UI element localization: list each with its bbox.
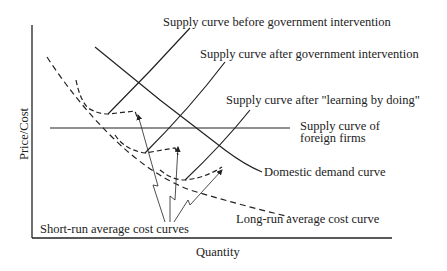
chart-canvas: Supply curve before government intervent… [0, 0, 447, 271]
supply-after-learning-curve [185, 110, 250, 180]
y-axis-label: Price/Cost [17, 107, 31, 160]
label-demand: Domestic demand curve [264, 165, 386, 179]
label-srac: Short-run average cost curves [40, 222, 189, 236]
label-supply-after-gov: Supply curve after government interventi… [200, 47, 419, 61]
label-lrac: Long-run average cost curve [236, 212, 380, 226]
supply-after-gov-curve [145, 62, 225, 153]
srac-curve-1 [76, 80, 137, 117]
label-foreign-supply-2: foreign firms [300, 131, 366, 145]
x-axis-label: Quantity [196, 245, 240, 259]
lrac-curve [47, 57, 290, 217]
demand-curve [95, 47, 262, 172]
supply-before-curve [108, 28, 190, 114]
label-supply-after-learning: Supply curve after "learning by doing" [226, 93, 420, 107]
label-supply-before: Supply curve before government intervent… [163, 15, 391, 29]
